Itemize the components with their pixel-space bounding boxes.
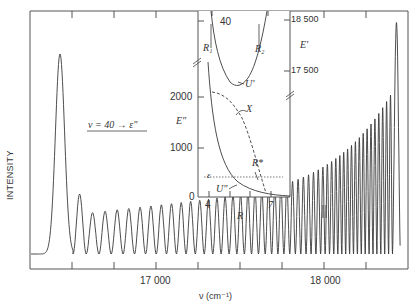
label-X: X bbox=[246, 104, 252, 114]
inset-tick-40: 40 bbox=[220, 17, 231, 27]
label-Rstar: R* bbox=[252, 158, 263, 168]
inset-tick-18500: 18 500 bbox=[291, 15, 319, 24]
spectrum-figure: INTENSITY 17 000 18 000 ν (cm⁻¹) v = 40 … bbox=[0, 0, 418, 306]
inset-tick-0: 0 bbox=[189, 192, 195, 202]
inset-tick-R4: 4 bbox=[205, 200, 211, 210]
label-U-double-prime: U" bbox=[216, 184, 227, 194]
inset-tick-R7: 7 bbox=[268, 200, 273, 210]
label-R2: R₂ bbox=[255, 44, 265, 54]
x-tick-18000: 18 000 bbox=[310, 276, 341, 286]
inset-x-label-R: R bbox=[237, 211, 243, 221]
x-tick-17000: 17 000 bbox=[140, 276, 171, 286]
inset-tick-1000: 1000 bbox=[170, 143, 192, 153]
inset-E-prime-label: E' bbox=[300, 40, 308, 50]
x-axis-label: ν (cm⁻¹) bbox=[199, 292, 232, 301]
inset-E-double-prime-label: E" bbox=[176, 116, 186, 126]
inset-tick-2000: 2000 bbox=[170, 92, 192, 102]
inset-tick-17500: 17 500 bbox=[291, 66, 319, 75]
transition-annotation: v = 40 → ε" bbox=[88, 120, 137, 131]
label-U-prime: U' bbox=[245, 79, 254, 89]
label-epsilon: ε bbox=[207, 171, 211, 180]
y-axis-label: INTENSITY bbox=[6, 150, 15, 200]
label-R1: R₁ bbox=[203, 43, 213, 53]
